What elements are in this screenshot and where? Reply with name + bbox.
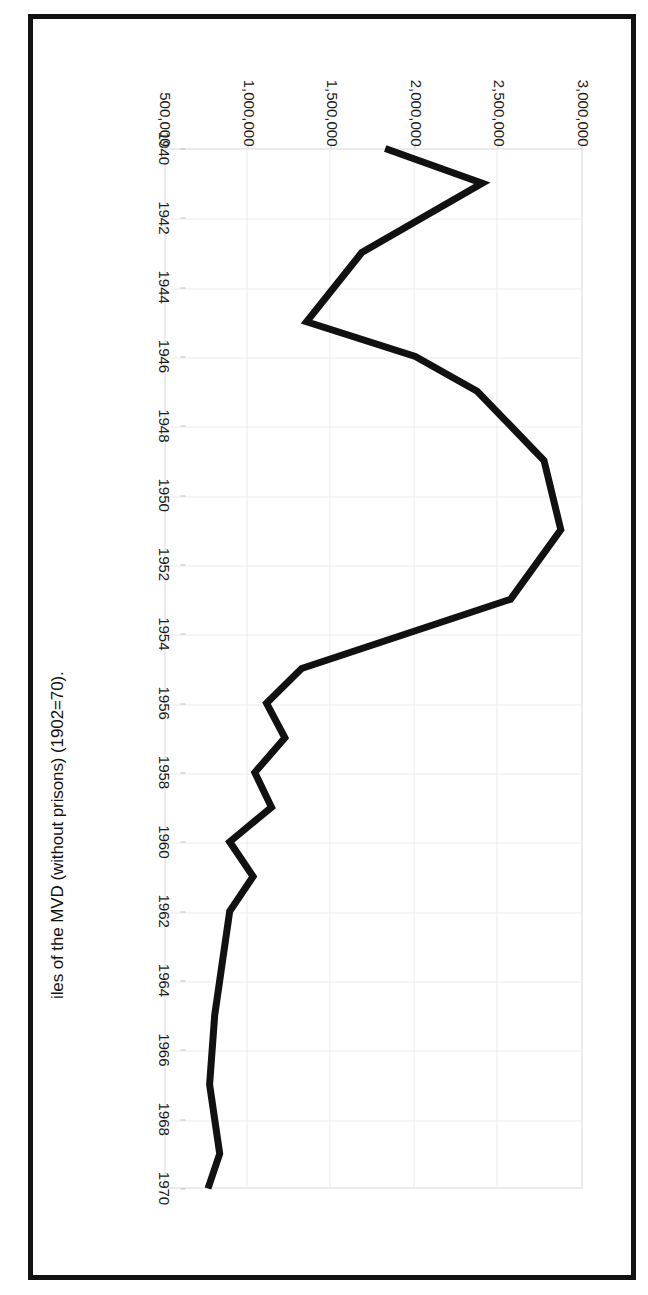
y-axis-tick-label: 500,000 xyxy=(157,92,174,146)
y-axis-tick-label: 2,500,000 xyxy=(491,80,508,147)
y-axis-tick-label: 1,500,000 xyxy=(324,80,341,147)
y-axis-tick-label: 2,000,000 xyxy=(407,80,424,147)
data-series-layer xyxy=(165,149,583,1189)
series-line xyxy=(208,149,561,1189)
x-axis-tick xyxy=(181,1189,186,1190)
y-axis-tick-label: 3,000,000 xyxy=(575,80,592,147)
figure-page-frame: iles of the MVD (without prisons) (1902=… xyxy=(28,14,636,1280)
line-chart: 1940194219441946194819501952195419561958… xyxy=(60,53,605,1243)
y-axis-tick-label: 1,000,000 xyxy=(240,80,257,147)
